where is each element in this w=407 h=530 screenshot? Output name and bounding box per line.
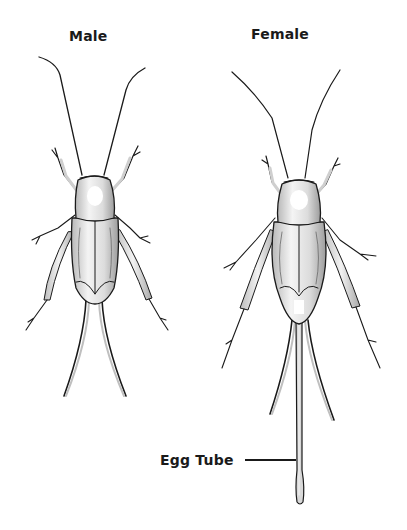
female-cricket <box>222 70 380 504</box>
female-antenna-right <box>305 70 340 178</box>
male-antenna-left <box>39 57 82 175</box>
male-hind-leg-left <box>44 232 74 300</box>
male-cricket <box>26 57 168 396</box>
female-hind-leg-right <box>322 230 360 308</box>
female-cercus-right <box>308 320 334 420</box>
female-antenna-left <box>232 72 288 178</box>
male-cercus-right <box>102 300 126 396</box>
female-hind-leg-left <box>240 230 276 310</box>
female-cercus-left <box>270 320 292 414</box>
male-antenna-right <box>104 68 145 175</box>
cricket-illustration <box>0 0 407 530</box>
male-hind-leg-right <box>114 230 152 300</box>
female-ovipositor <box>296 318 304 504</box>
